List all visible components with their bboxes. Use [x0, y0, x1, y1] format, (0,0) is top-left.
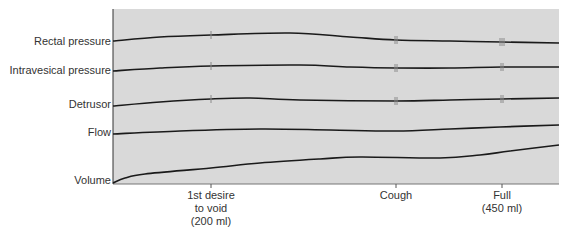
event-label-line: to void	[187, 202, 235, 215]
event-label-1st-desire: 1st desireto void(200 ml)	[187, 189, 235, 228]
event-label-line: (450 ml)	[482, 202, 522, 215]
event-label-line: Cough	[380, 189, 412, 202]
trace-label-volume: Volume	[74, 174, 111, 186]
event-label-line: 1st desire	[187, 189, 235, 202]
urodynamic-trace-diagram: Rectal pressureIntravesical pressureDetr…	[0, 0, 569, 237]
trace-label-rectal-pressure: Rectal pressure	[34, 35, 111, 47]
trace-label-detrusor: Detrusor	[69, 98, 111, 110]
event-label-line: (200 ml)	[187, 215, 235, 228]
trace-label-intravesical-pressure: Intravesical pressure	[10, 64, 112, 76]
event-label-full: Full(450 ml)	[482, 189, 522, 215]
event-label-cough: Cough	[380, 189, 412, 202]
trace-label-flow: Flow	[88, 126, 111, 138]
event-label-line: Full	[482, 189, 522, 202]
